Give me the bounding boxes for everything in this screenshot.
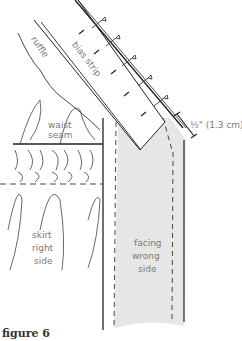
label-measurement: ½" (1.3 cm)	[190, 120, 242, 130]
facing-shape	[114, 118, 186, 328]
label-facing-3: side	[138, 264, 156, 274]
label-facing-2: wrong	[132, 251, 160, 261]
label-facing-1: facing	[134, 238, 162, 248]
label-waist-1: waist	[48, 120, 72, 130]
label-skirt-1: skirt	[32, 230, 52, 240]
figure-caption: figure 6	[2, 327, 50, 340]
label-waist-2: seam	[48, 130, 73, 140]
label-skirt-2: right	[32, 243, 53, 253]
label-skirt-3: side	[34, 256, 52, 266]
